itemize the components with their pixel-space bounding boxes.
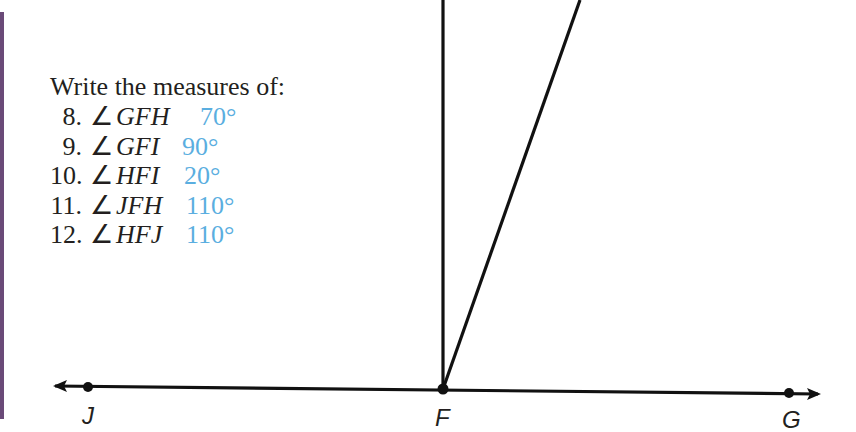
ray-fh <box>443 0 580 389</box>
answer: 110° <box>186 220 234 250</box>
point-j <box>83 382 93 392</box>
point-g <box>784 388 794 398</box>
angle-symbol-icon: ∠ <box>90 191 113 220</box>
angle-symbol-icon: ∠ <box>90 102 113 131</box>
answer: 110° <box>186 191 234 221</box>
question-row: 12. ∠HFJ 110° <box>50 220 285 250</box>
answer: 70° <box>200 102 236 132</box>
question-row: 8. ∠GFH 70° <box>50 102 285 132</box>
answer: 90° <box>182 132 218 162</box>
point-label-j: J <box>82 402 94 430</box>
question-row: 9. ∠GFI 90° <box>50 132 285 162</box>
angle-name: ∠HFI <box>90 161 184 191</box>
question-row: 11. ∠JFH 110° <box>50 191 285 221</box>
question-number: 12. <box>50 220 90 250</box>
question-number: 10. <box>50 161 90 191</box>
question-number: 8. <box>50 102 90 132</box>
point-f <box>438 384 449 395</box>
question-row: 10. ∠HFI 20° <box>50 161 285 191</box>
angle-symbol-icon: ∠ <box>90 132 113 161</box>
exercise-prompt: Write the measures of: <box>50 72 285 102</box>
angle-name: ∠HFJ <box>90 220 186 250</box>
answer: 20° <box>184 161 220 191</box>
angle-symbol-icon: ∠ <box>90 220 113 249</box>
exercise-block: Write the measures of: 8. ∠GFH 70° 9. ∠G… <box>50 72 285 250</box>
angle-name: ∠JFH <box>90 191 186 221</box>
point-label-g: G <box>782 406 801 432</box>
point-label-f: F <box>435 404 450 432</box>
angle-name: ∠GFH <box>90 102 194 132</box>
angle-name: ∠GFI <box>90 132 182 162</box>
line-jg <box>53 380 821 400</box>
angle-symbol-icon: ∠ <box>90 161 113 190</box>
question-number: 11. <box>50 191 90 221</box>
question-number: 9. <box>50 132 90 162</box>
